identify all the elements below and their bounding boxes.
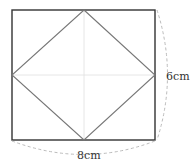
height-label: 6cm	[166, 70, 190, 83]
width-label: 8cm	[77, 149, 101, 162]
rectangle-diamond-diagram: 6cm 8cm	[0, 0, 196, 166]
